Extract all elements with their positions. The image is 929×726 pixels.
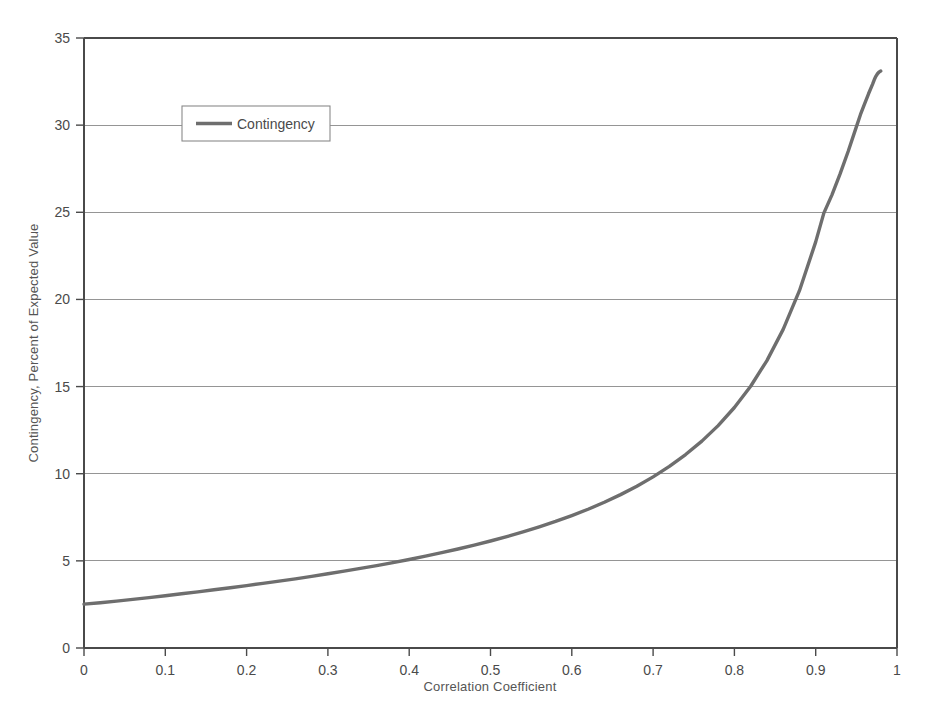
- x-tick-label: 0.9: [806, 662, 826, 678]
- x-tick-label: 0.2: [237, 662, 257, 678]
- y-tick-label: 25: [54, 204, 70, 220]
- x-tick-label: 0.7: [643, 662, 663, 678]
- legend: Contingency: [182, 106, 330, 141]
- y-tick-label: 35: [54, 30, 70, 46]
- x-axis-title: Correlation Coefficient: [424, 679, 557, 694]
- y-axis-title: Contingency, Percent of Expected Value: [26, 223, 41, 462]
- y-tick-label: 30: [54, 117, 70, 133]
- y-axis-tick-labels: 05101520253035: [54, 30, 70, 656]
- x-tick-label: 1: [893, 662, 901, 678]
- y-tick-label: 15: [54, 379, 70, 395]
- x-tick-label: 0.6: [562, 662, 582, 678]
- y-axis-ticks: [76, 38, 84, 648]
- legend-label-contingency: Contingency: [237, 116, 315, 132]
- x-tick-label: 0: [80, 662, 88, 678]
- x-tick-label: 0.5: [481, 662, 501, 678]
- y-tick-label: 10: [54, 466, 70, 482]
- contingency-vs-correlation-chart: 05101520253035 00.10.20.30.40.50.60.70.8…: [0, 0, 929, 726]
- x-axis-tick-labels: 00.10.20.30.40.50.60.70.80.91: [80, 662, 901, 678]
- y-tick-label: 5: [62, 553, 70, 569]
- x-tick-label: 0.8: [725, 662, 745, 678]
- x-tick-label: 0.3: [318, 662, 338, 678]
- figure-container: 05101520253035 00.10.20.30.40.50.60.70.8…: [0, 0, 929, 726]
- x-tick-label: 0.4: [399, 662, 419, 678]
- x-axis-ticks: [84, 648, 897, 656]
- y-tick-label: 0: [62, 640, 70, 656]
- x-tick-label: 0.1: [156, 662, 176, 678]
- y-tick-label: 20: [54, 291, 70, 307]
